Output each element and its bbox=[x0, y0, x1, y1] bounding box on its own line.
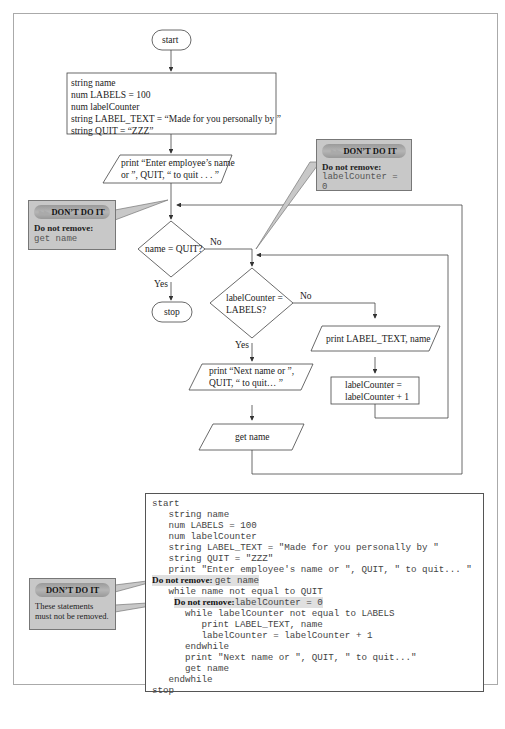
warning-badge: ▶▶DON’T DO IT bbox=[322, 144, 406, 158]
start-label: start bbox=[162, 34, 178, 46]
decision-labels-line-2: LABELS? bbox=[226, 304, 266, 316]
arrow-no-labels bbox=[205, 249, 252, 266]
decision-labels-no: No bbox=[300, 290, 312, 302]
prompt-line-2: or ”, QUIT, “ to quit . . . ” bbox=[121, 169, 219, 181]
do-not-remove-label: Do not remove: bbox=[174, 597, 235, 607]
pseudocode-line: string name bbox=[152, 509, 477, 520]
decision-labels-yes: Yes bbox=[235, 339, 249, 351]
pseudocode-line-highlighted: Do not remove: get name bbox=[152, 575, 477, 586]
declarations-text: string name num LABELS = 100 num labelCo… bbox=[71, 77, 281, 137]
badge-label: DON’T DO IT bbox=[46, 585, 99, 595]
double-arrow-icon: ▶▶ bbox=[39, 209, 49, 217]
decl-line: string LABEL_TEXT = “Made for you person… bbox=[71, 113, 281, 125]
callout-code: get name bbox=[34, 234, 77, 244]
prompt-line-1: print “Enter employee’s name bbox=[121, 157, 235, 169]
warning-badge: ▶▶DON’T DO IT bbox=[34, 205, 110, 219]
decl-line: string QUIT = “ZZZ” bbox=[71, 125, 281, 137]
badge-label: DON’T DO IT bbox=[51, 207, 104, 217]
double-arrow-icon: ▶▶ bbox=[331, 148, 341, 156]
stop-label: stop bbox=[164, 306, 180, 318]
pseudocode-line: start bbox=[152, 498, 477, 509]
badge-label: DON’T DO IT bbox=[343, 146, 396, 156]
callout-bottom: DON’T DO IT These statements must not be… bbox=[29, 578, 116, 630]
decision-labels-line-1: labelCounter = bbox=[226, 292, 283, 304]
decl-line: num labelCounter bbox=[71, 101, 281, 113]
increment-line-1: labelCounter = bbox=[345, 379, 402, 391]
increment-line-2: labelCounter + 1 bbox=[345, 391, 409, 403]
pseudocode-line-highlighted: Do not remove:labelCounter = 0 bbox=[152, 597, 477, 608]
pseudocode-line: endwhile bbox=[152, 641, 477, 652]
decision-quit-label: name = QUIT? bbox=[145, 243, 203, 255]
pseudocode-line: endwhile bbox=[152, 674, 477, 685]
decl-line: string name bbox=[71, 77, 281, 89]
warning-badge: DON’T DO IT bbox=[35, 583, 110, 597]
decl-line: num LABELS = 100 bbox=[71, 89, 281, 101]
pseudocode-line: print "Enter employee's name or ", QUIT,… bbox=[152, 564, 477, 575]
decision-quit-no: No bbox=[210, 236, 222, 248]
pseudocode-line: num LABELS = 100 bbox=[152, 520, 477, 531]
callout-left-pointer bbox=[115, 200, 168, 220]
callout-top-pointer bbox=[256, 162, 320, 249]
pseudocode-box: startstring namenum LABELS = 100num labe… bbox=[145, 493, 484, 692]
pseudocode-line: string QUIT = "ZZZ" bbox=[152, 553, 477, 564]
decision-quit-yes: Yes bbox=[154, 278, 168, 290]
next-prompt-line-1: print “Next name or ”, bbox=[209, 365, 294, 377]
arrow-labels-no bbox=[293, 303, 375, 318]
callout-code: labelCounter = 0 bbox=[322, 172, 406, 192]
pseudocode-line: num labelCounter bbox=[152, 531, 477, 542]
callout-top-right: ▶▶DON’T DO IT Do not remove: labelCounte… bbox=[316, 139, 412, 191]
code-text: labelCounter = 0 bbox=[235, 597, 323, 608]
print-label-text: print LABEL_TEXT, name bbox=[326, 333, 431, 345]
pseudocode-line: get name bbox=[152, 663, 477, 674]
pseudocode-line: print LABEL_TEXT, name bbox=[152, 619, 477, 630]
next-prompt-line-2: QUIT, “ to quit… ” bbox=[209, 377, 283, 389]
callout-bold-text: Do not remove: bbox=[322, 162, 406, 172]
callout-text: These statements must not be removed. bbox=[35, 601, 110, 621]
code-text: get name bbox=[215, 575, 259, 586]
pseudocode-line: stop bbox=[152, 685, 477, 696]
pseudocode-line: while labelCounter not equal to LABELS bbox=[152, 608, 477, 619]
pseudocode-line: string LABEL_TEXT = "Made for you person… bbox=[152, 542, 477, 553]
do-not-remove-label: Do not remove: bbox=[152, 575, 215, 585]
pseudocode-line: labelCounter = labelCounter + 1 bbox=[152, 630, 477, 641]
callout-bold-text: Do not remove: bbox=[34, 223, 93, 233]
pseudocode-line: print "Next name or ", QUIT, " to quit..… bbox=[152, 652, 477, 663]
callout-left: ▶▶DON’T DO IT Do not remove: get name bbox=[28, 200, 116, 250]
get-name-label: get name bbox=[235, 431, 270, 443]
pseudocode-line: while name not equal to QUIT bbox=[152, 586, 477, 597]
